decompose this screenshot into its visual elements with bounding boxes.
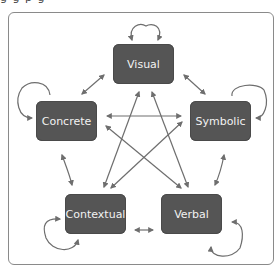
- edge-visual-verbal: [152, 92, 188, 187]
- node-verbal: Verbal: [161, 194, 222, 234]
- edge-symbolic-contextual: [111, 122, 182, 188]
- edge-concrete-contextual: [62, 155, 72, 185]
- node-contextual: Contextual: [65, 194, 126, 234]
- node-label: Visual: [127, 58, 160, 71]
- edge-symbolic-verbal: [215, 155, 224, 185]
- node-label: Verbal: [174, 208, 209, 221]
- node-concrete: Concrete: [36, 101, 97, 141]
- node-label: Contextual: [66, 208, 126, 221]
- node-visual: Visual: [113, 44, 174, 84]
- node-label: Symbolic: [195, 115, 245, 128]
- node-symbolic: Symbolic: [190, 101, 251, 141]
- edge-visual-symbolic: [184, 75, 205, 94]
- edge-visual-concrete: [82, 75, 104, 94]
- node-label: Concrete: [42, 115, 92, 128]
- self-loop-visual: [131, 25, 159, 40]
